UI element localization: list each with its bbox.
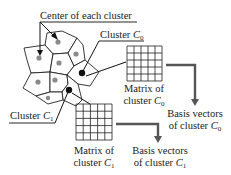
diagram-svg: Center of each cluster Cluster C0 Cluste… bbox=[0, 0, 231, 175]
flow-arrow-c1 bbox=[116, 124, 158, 137]
center-dot bbox=[35, 79, 40, 84]
cluster-c1-label: Cluster C1 bbox=[10, 110, 54, 123]
basis-c0-label-line2: of cluster C0 bbox=[169, 120, 222, 133]
center-dot bbox=[56, 60, 61, 65]
matrix-c1-grid bbox=[76, 104, 112, 140]
basis-c1-label-line1: Basis vectors bbox=[132, 145, 188, 156]
basis-c0-label-line1: Basis vectors bbox=[167, 108, 223, 119]
matrix-c0-label-line2: cluster C0 bbox=[123, 95, 165, 108]
cluster-basis-diagram: Center of each cluster Cluster C0 Cluste… bbox=[0, 0, 231, 175]
center-dot bbox=[73, 51, 78, 56]
center-dot bbox=[36, 55, 41, 60]
basis-c1-label-line2: of cluster C1 bbox=[134, 157, 187, 170]
center-dot bbox=[52, 77, 57, 82]
matrix-c0-label-line1: Matrix of bbox=[124, 83, 164, 94]
center-c0-dot bbox=[79, 70, 85, 76]
center-c1-dot bbox=[66, 87, 72, 93]
center-of-each-cluster-label: Center of each cluster bbox=[40, 10, 132, 21]
center-dot bbox=[55, 39, 60, 44]
arrow-down-icon bbox=[191, 99, 199, 106]
arrow-down-icon bbox=[154, 136, 162, 143]
matrix-c0-grid bbox=[127, 46, 162, 81]
voronoi-clusters bbox=[23, 31, 99, 106]
cluster-c0-label: Cluster C0 bbox=[100, 29, 144, 42]
flow-arrow-c0 bbox=[166, 65, 195, 100]
center-dot bbox=[46, 96, 50, 100]
matrix-c1-label-line1: Matrix of bbox=[74, 145, 114, 156]
matrix-c1-label-line2: cluster C1 bbox=[73, 157, 115, 170]
